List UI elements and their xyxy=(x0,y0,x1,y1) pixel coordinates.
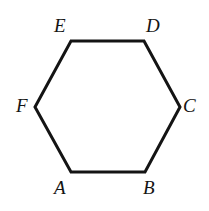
vertex-label-e: E xyxy=(54,16,66,35)
hexagon-outline xyxy=(35,41,180,172)
vertex-label-d: D xyxy=(146,16,160,35)
hexagon-figure: E D F C A B xyxy=(0,0,209,211)
vertex-label-b: B xyxy=(143,178,155,197)
vertex-label-f: F xyxy=(16,96,28,115)
vertex-label-a: A xyxy=(54,178,66,197)
vertex-label-c: C xyxy=(183,96,196,115)
hexagon-shape xyxy=(0,0,209,211)
